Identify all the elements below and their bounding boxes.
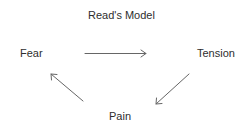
arrow-pain-to-fear — [51, 74, 83, 101]
arrow-fear-to-tension — [85, 50, 146, 57]
arrow-tension-to-pain — [156, 74, 189, 104]
edges-layer — [0, 0, 246, 128]
diagram-canvas: Read's Model Fear Tension Pain — [0, 0, 246, 128]
